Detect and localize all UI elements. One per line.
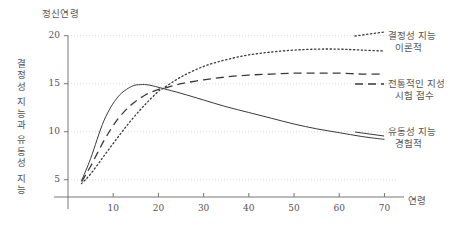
legend-label-secondary: 이론적 (388, 42, 464, 54)
legend-label-secondary: 시험 점수 (388, 90, 464, 102)
legend-item-0: 결정성 지능이론적 (388, 30, 464, 54)
gridlines (68, 36, 398, 180)
legend-label-primary: 결정성 지능 (388, 30, 464, 42)
y-tick-label: 10 (38, 126, 60, 136)
y-tick-label: 5 (38, 174, 60, 184)
x-tick-label: 10 (100, 203, 126, 213)
data-curves (82, 49, 385, 184)
y-tick-label: 15 (38, 78, 60, 88)
legend-item-1: 전통적인 지성시험 점수 (388, 78, 464, 102)
x-tick-label: 30 (191, 203, 217, 213)
legend-line-sample-0 (355, 32, 384, 36)
x-tick-label: 50 (281, 203, 307, 213)
legend-line-samples (355, 32, 384, 136)
axis-lines (54, 36, 404, 209)
legend-label-primary: 전통적인 지성 (388, 78, 464, 90)
y-tick-label: 20 (38, 30, 60, 40)
x-tick-label: 70 (371, 203, 397, 213)
legend-line-sample-2 (355, 132, 384, 136)
x-axis-label: 연령 (408, 193, 426, 207)
chart-figure: 정신연령 결 정 성 지 능 과 유 동 성 지 능 2015105 10203… (0, 0, 464, 244)
x-tick-label: 20 (145, 203, 171, 213)
series-line-0 (82, 49, 385, 184)
legend-item-2: 유동성 지능경험적 (388, 126, 464, 150)
x-tick-label: 60 (326, 203, 352, 213)
legend-label-secondary: 경험적 (388, 138, 464, 150)
axis-ticks (64, 36, 384, 197)
legend-label-primary: 유동성 지능 (388, 126, 464, 138)
series-line-2 (82, 85, 385, 181)
x-tick-label: 40 (236, 203, 262, 213)
